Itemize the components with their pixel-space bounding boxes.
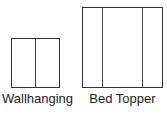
bed-topper-label: Bed Topper (82, 91, 163, 106)
wallhanging-diagram (11, 38, 60, 88)
panel-divider (142, 8, 143, 87)
bed-topper-diagram (82, 7, 163, 88)
panel-divider (102, 8, 103, 87)
wallhanging-label: Wallhanging (2, 91, 68, 106)
panel-divider (35, 39, 36, 87)
